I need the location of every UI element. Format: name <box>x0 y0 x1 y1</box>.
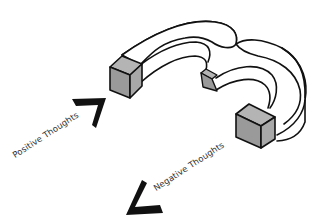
center-pole <box>201 69 217 91</box>
left-pole <box>110 56 142 98</box>
right-pole <box>236 104 275 148</box>
magnet-body <box>122 21 306 141</box>
magnet-diagram: Positive Thoughts Negative Thoughts <box>0 0 320 222</box>
